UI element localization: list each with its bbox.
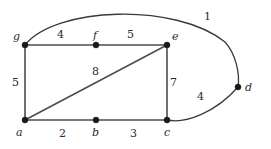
- vertex-label-e: e: [172, 31, 179, 42]
- edge-a-e: [25, 45, 167, 120]
- vertex-label-d: d: [245, 82, 252, 93]
- edge-g-d: [25, 14, 238, 87]
- edge-weight-b-c: 3: [130, 128, 137, 139]
- vertex-label-f: f: [93, 30, 97, 41]
- edge-weight-f-e: 5: [127, 29, 134, 40]
- vertex-d: [235, 84, 241, 90]
- edge-weight-g-d: 1: [204, 11, 211, 22]
- vertex-label-a: a: [16, 127, 23, 138]
- vertex-b: [93, 117, 99, 123]
- vertex-a: [22, 117, 28, 123]
- edge-weight-a-e: 8: [92, 66, 99, 77]
- vertex-label-g: g: [13, 31, 20, 42]
- vertex-label-c: c: [164, 127, 170, 138]
- edge-weight-g-a: 5: [12, 77, 19, 88]
- vertex-e: [164, 42, 170, 48]
- edge-weight-e-c: 7: [170, 77, 177, 88]
- edge-weight-a-b: 2: [59, 128, 66, 139]
- edge-weight-g-f: 4: [57, 29, 64, 40]
- vertex-g: [22, 42, 28, 48]
- vertex-label-b: b: [92, 127, 99, 138]
- vertex-c: [164, 117, 170, 123]
- weighted-graph-figure: g f e d a b c 4 5 5 8 7 2 3 1 4: [0, 0, 271, 149]
- edge-weight-c-d: 4: [197, 91, 204, 102]
- vertex-f: [93, 42, 99, 48]
